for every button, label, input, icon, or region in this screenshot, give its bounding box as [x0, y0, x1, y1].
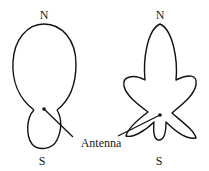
antenna-callout-label: Antenna [81, 136, 122, 150]
left-south-label: S [39, 154, 46, 168]
antenna-diagram: N S N S Antenna [0, 0, 209, 171]
left-north-label: N [40, 8, 49, 22]
right-south-label: S [156, 154, 163, 168]
left-front-lobe [13, 24, 76, 110]
right-radiation-pattern [118, 24, 196, 140]
right-north-label: N [156, 8, 165, 22]
right-multi-lobe-outline [124, 24, 196, 140]
left-radiation-pattern [13, 24, 76, 149]
left-back-lobe [28, 110, 61, 149]
